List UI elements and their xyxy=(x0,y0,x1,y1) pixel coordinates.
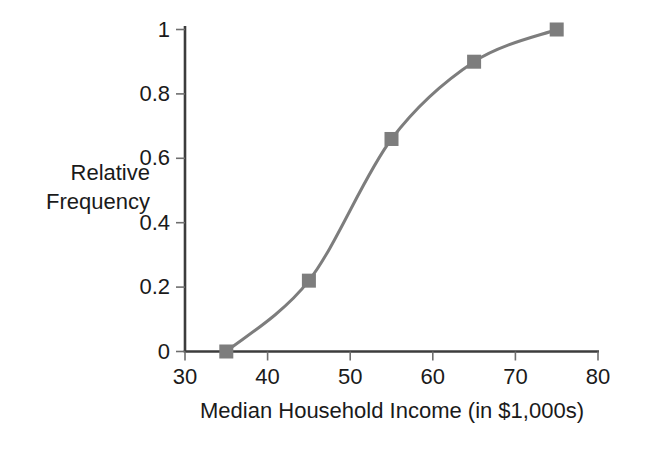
data-point-marker xyxy=(302,274,316,288)
y-tick-label-1: 1 xyxy=(118,19,170,41)
y-tick-label-0point2: 0.2 xyxy=(118,276,170,298)
data-series-line xyxy=(226,30,515,352)
chart-figure: 1 0.8 0.6 0.4 0.2 0 30 40 50 60 70 80 Re… xyxy=(0,0,651,449)
ogive-curve xyxy=(226,30,556,352)
x-axis-ticks xyxy=(185,352,598,361)
data-point-marker xyxy=(219,345,233,359)
y-axis-title-line-1: Relative xyxy=(18,158,150,187)
data-point-marker xyxy=(467,55,481,69)
x-tick-label-80: 80 xyxy=(586,366,610,388)
x-tick-label-70: 70 xyxy=(503,366,527,388)
y-axis-ticks xyxy=(176,30,185,352)
x-tick-label-40: 40 xyxy=(255,366,279,388)
axis-lines xyxy=(184,26,599,352)
data-point-marker xyxy=(385,132,399,146)
x-axis-title: Median Household Income (in $1,000s) xyxy=(185,398,599,424)
x-tick-label-50: 50 xyxy=(338,366,362,388)
data-point-markers xyxy=(219,23,563,359)
data-point-marker xyxy=(550,23,564,37)
chart-plot-area xyxy=(0,0,651,449)
y-tick-label-0point8: 0.8 xyxy=(118,83,170,105)
y-tick-label-0: 0 xyxy=(118,341,170,363)
y-axis-title-line-2: Frequency xyxy=(18,187,150,216)
x-tick-label-30: 30 xyxy=(173,366,197,388)
x-tick-label-60: 60 xyxy=(421,366,445,388)
y-axis-title: Relative Frequency xyxy=(18,158,150,216)
